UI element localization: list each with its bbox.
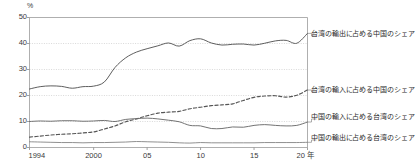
chart-legend: 台湾の輸出に占める中国のシェア台湾の輸入に占める中国のシェア中国の輸入に占める台…: [0, 0, 415, 168]
legend-label-1: 台湾の輸入に占める中国のシェア: [311, 86, 415, 95]
chart-container: % 50403020100 1994200005101520 年 台湾の輸出に占…: [0, 0, 415, 168]
legend-label-3: 中国の輸出に占める台湾のシェア: [311, 134, 415, 143]
legend-label-0: 台湾の輸出に占める中国のシェア: [311, 30, 415, 39]
legend-label-2: 中国の輸入に占める台湾のシェア: [311, 113, 415, 122]
